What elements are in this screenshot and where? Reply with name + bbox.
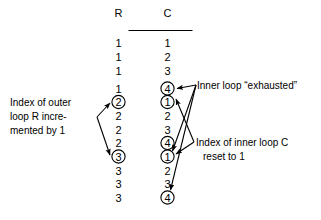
cell-c-4: 4 <box>164 83 170 95</box>
cell-r-11: 3 <box>115 178 121 190</box>
cell-c-9: 1 <box>164 151 170 163</box>
cell-c-6: 2 <box>164 110 170 122</box>
cell-r-5: 2 <box>115 96 121 108</box>
annotation-inner-exhausted-line1: Inner loop “exhausted” <box>197 80 297 91</box>
cell-r-12: 3 <box>115 192 121 204</box>
leader-outer-to-r2 <box>97 103 110 117</box>
cell-r-10: 3 <box>115 165 121 177</box>
cell-r-1: 1 <box>115 37 121 49</box>
cell-c-1: 1 <box>164 37 170 49</box>
cell-r-2: 1 <box>115 51 121 63</box>
annotation-inner-reset-line1: Index of inner loop C <box>196 137 288 148</box>
cell-c-12: 4 <box>164 192 170 204</box>
column-header-r: R <box>115 7 123 19</box>
cell-r-9: 3 <box>115 151 121 163</box>
column-header-c: C <box>164 7 172 19</box>
cell-r-6: 2 <box>115 110 121 122</box>
cell-c-5: 1 <box>164 96 170 108</box>
leader-reset-to-c1-second <box>176 142 194 154</box>
cell-c-10: 2 <box>164 165 170 177</box>
annotation-outer-loop-line1: Index of outer <box>10 97 72 108</box>
cell-c-8: 4 <box>164 137 170 149</box>
cell-c-7: 3 <box>164 124 170 136</box>
cell-r-8: 2 <box>115 137 121 149</box>
cell-c-11: 3 <box>164 178 170 190</box>
figure-canvas: R C 1 1 1 1 2 2 2 2 3 3 3 3 1 2 3 4 1 2 … <box>0 0 321 220</box>
nested-loop-trace-figure: R C 1 1 1 1 2 2 2 2 3 3 3 3 1 2 3 4 1 2 … <box>0 0 321 220</box>
annotation-outer-loop-line3: mented by 1 <box>10 125 65 136</box>
annotation-outer-loop-line2: loop R incre- <box>10 111 67 122</box>
cell-r-7: 2 <box>115 124 121 136</box>
leader-exhausted-to-c4-first <box>177 85 196 89</box>
cell-r-3: 1 <box>115 65 121 77</box>
leader-outer-to-r3 <box>97 117 110 155</box>
cell-c-2: 2 <box>164 51 170 63</box>
cell-c-3: 3 <box>164 65 170 77</box>
annotation-inner-reset-line2: reset to 1 <box>203 151 245 162</box>
cell-r-4: 1 <box>115 83 121 95</box>
